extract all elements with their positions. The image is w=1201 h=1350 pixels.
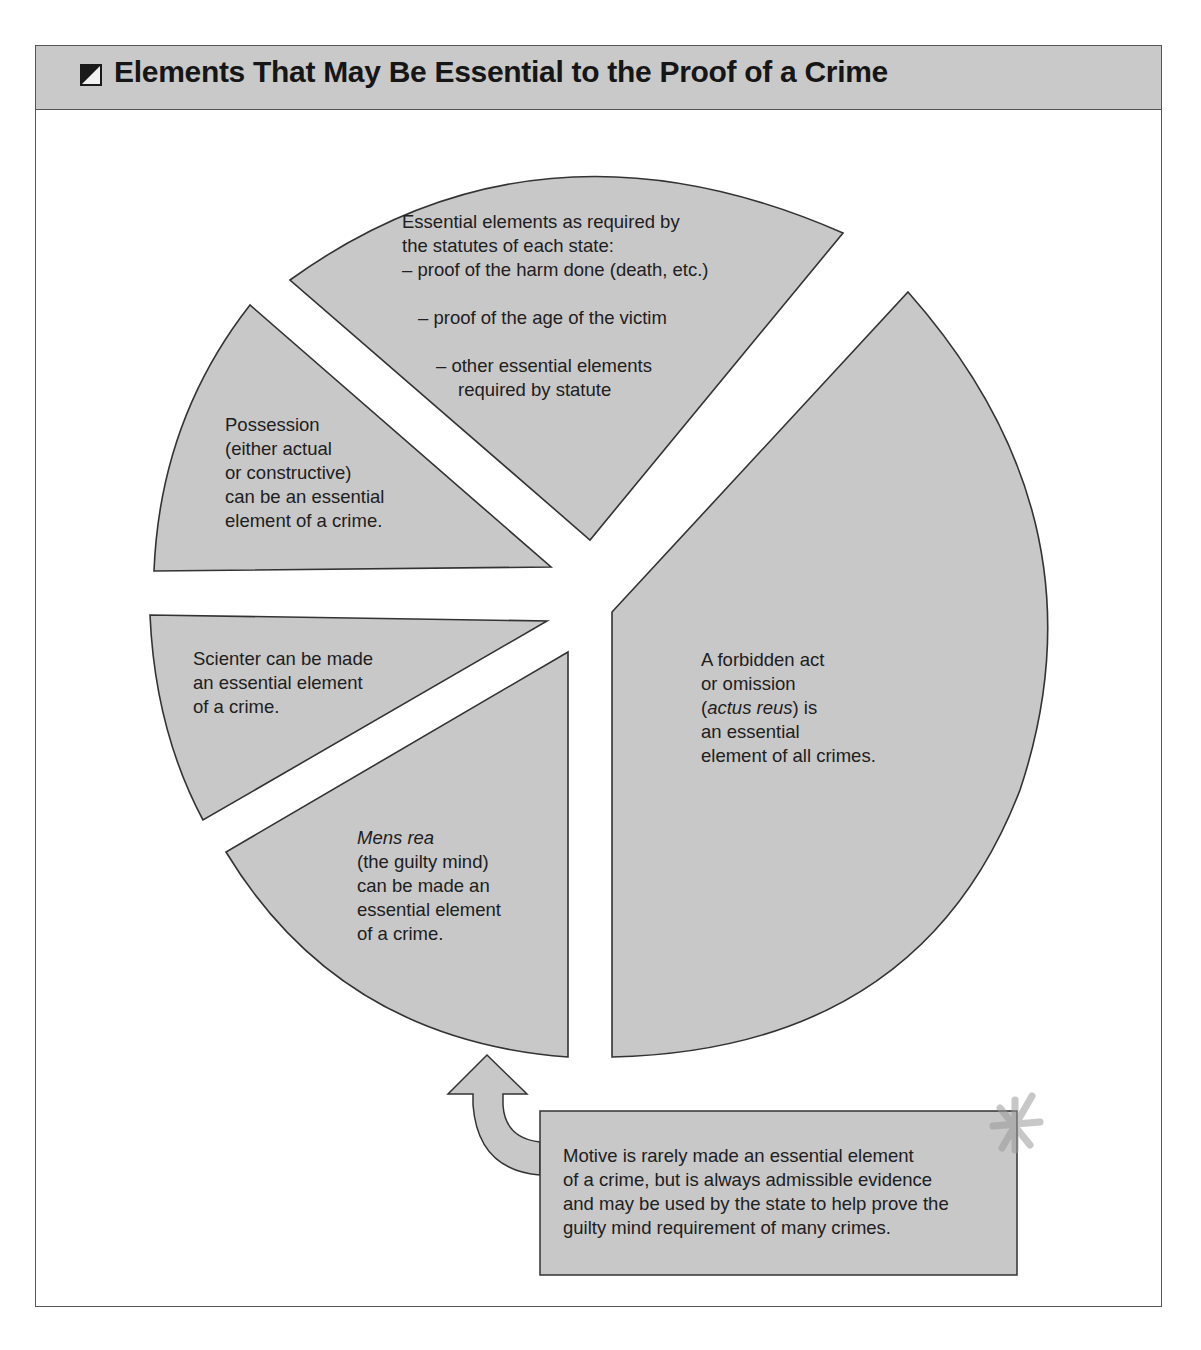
actus-reus-line-3: (actus reus) is — [701, 697, 817, 718]
statutory-line-5: – other essential elements — [436, 355, 652, 376]
motive-line-1: Motive is rarely made an essential eleme… — [563, 1145, 914, 1166]
possession-line-5: element of a crime. — [225, 510, 382, 531]
scienter-line-3: of a crime. — [193, 696, 279, 717]
scienter-line-1: Scienter can be made — [193, 648, 373, 669]
actus-reus-paren-close: ) is — [793, 697, 818, 718]
possession-line-1: Possession — [225, 414, 320, 435]
motive-line-3: and may be used by the state to help pro… — [563, 1193, 949, 1214]
mens-rea-line-2: can be made an — [357, 875, 490, 896]
statutory-line-3: – proof of the harm done (death, etc.) — [402, 259, 708, 280]
actus-reus-line-2: or omission — [701, 673, 796, 694]
actus-reus-term: actus reus — [707, 697, 792, 718]
mens-rea-term: Mens rea — [357, 827, 434, 848]
statutory-line-6: required by statute — [458, 379, 611, 400]
statutory-line-4: – proof of the age of the victim — [418, 307, 667, 328]
possession-line-4: can be an essential — [225, 486, 384, 507]
motive-line-2: of a crime, but is always admissible evi… — [563, 1169, 932, 1190]
curved-up-arrow-icon — [448, 1055, 540, 1175]
motive-line-4: guilty mind requirement of many crimes. — [563, 1217, 891, 1238]
scienter-line-2: an essential element — [193, 672, 363, 693]
actus-reus-line-1: A forbidden act — [701, 649, 824, 670]
statutory-line-1: Essential elements as required by — [402, 211, 680, 232]
actus-reus-line-5: element of all crimes. — [701, 745, 876, 766]
mens-rea-line-4: of a crime. — [357, 923, 443, 944]
mens-rea-line-1: (the guilty mind) — [357, 851, 489, 872]
actus-reus-line-4: an essential — [701, 721, 800, 742]
statutory-line-2: the statutes of each state: — [402, 235, 614, 256]
possession-line-3: or constructive) — [225, 462, 351, 483]
possession-line-2: (either actual — [225, 438, 332, 459]
pie-diagram: Essential elements as required by the st… — [0, 0, 1201, 1350]
mens-rea-line-3: essential element — [357, 899, 501, 920]
